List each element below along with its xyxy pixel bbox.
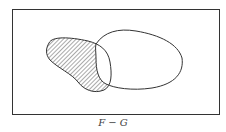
diagram-caption: F − G xyxy=(0,117,226,128)
universe-rectangle xyxy=(13,10,220,115)
venn-diagram xyxy=(0,0,226,132)
hatched-region-f-minus-g xyxy=(0,0,226,132)
